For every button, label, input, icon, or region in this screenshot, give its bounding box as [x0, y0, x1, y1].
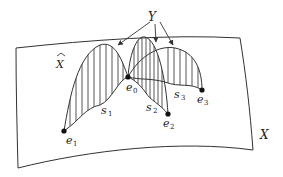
label-X-hat: X — [55, 53, 65, 71]
svg-text:e: e — [66, 134, 73, 147]
svg-text:X: X — [55, 58, 65, 71]
point-e1 — [61, 128, 66, 133]
label-e1: e 1 — [66, 134, 77, 148]
svg-text:s: s — [174, 88, 180, 101]
point-e0 — [125, 74, 130, 79]
svg-text:2: 2 — [153, 107, 157, 115]
svg-text:3: 3 — [204, 99, 208, 107]
label-e2: e 2 — [163, 117, 174, 131]
point-e3 — [199, 87, 204, 92]
svg-text:e: e — [126, 81, 133, 94]
hatch-left-lobe — [70, 40, 123, 135]
svg-text:0: 0 — [133, 87, 137, 95]
svg-text:2: 2 — [170, 123, 174, 131]
diagram-canvas: Y X X e 0 e 1 e 2 e 3 s 1 s 2 s 3 — [0, 0, 283, 177]
svg-text:s: s — [101, 104, 107, 117]
sheet-X — [16, 37, 253, 168]
svg-text:e: e — [163, 117, 170, 130]
label-s3: s 3 — [174, 88, 185, 102]
svg-text:s: s — [146, 101, 152, 114]
point-e2 — [165, 111, 170, 116]
arrow-Y-to-right — [160, 22, 173, 45]
svg-text:e: e — [197, 93, 204, 106]
label-Y: Y — [148, 10, 157, 24]
label-X: X — [259, 128, 269, 142]
svg-text:1: 1 — [73, 140, 77, 148]
svg-text:3: 3 — [181, 94, 185, 102]
label-e3: e 3 — [197, 93, 208, 107]
label-s1: s 1 — [101, 104, 112, 118]
svg-text:1: 1 — [108, 110, 112, 118]
label-e0: e 0 — [126, 81, 137, 95]
arrow-Y-to-middle — [155, 24, 156, 42]
hat-accent — [57, 53, 65, 56]
arrow-Y-to-left — [118, 22, 150, 45]
